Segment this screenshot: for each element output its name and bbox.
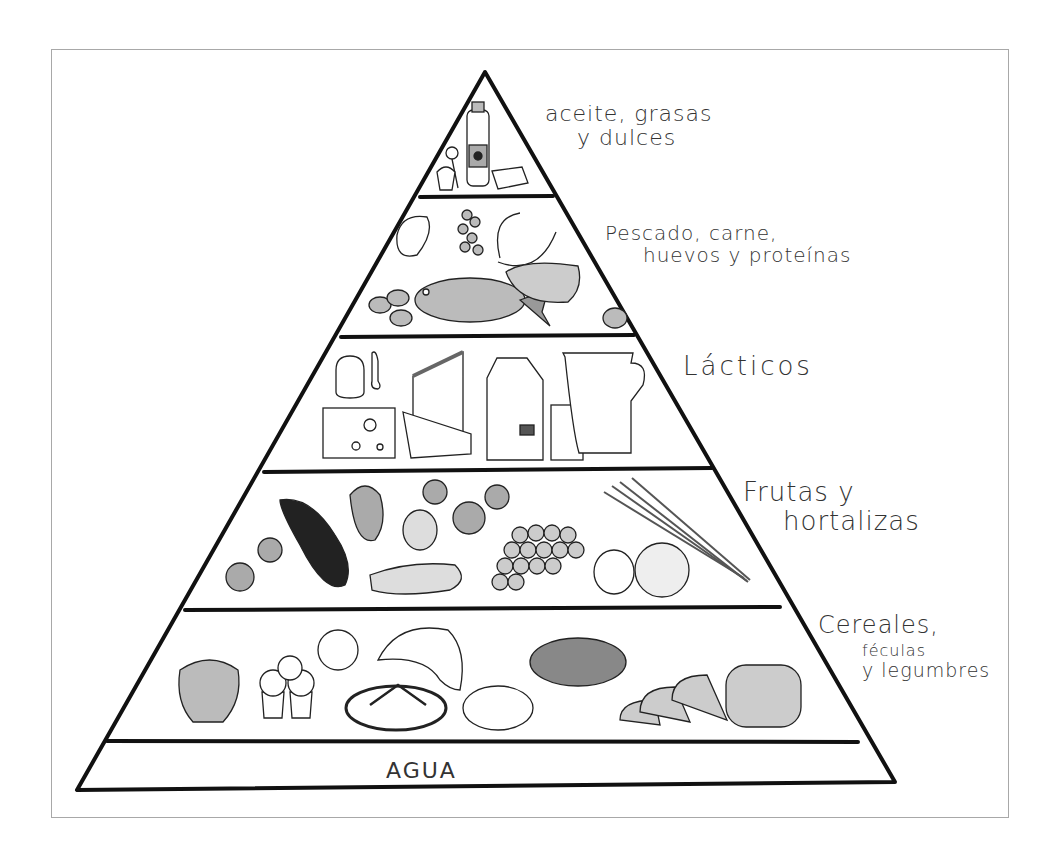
tier-1-label: aceite, grasas y dulces — [545, 102, 713, 150]
tier-6-label: AGUA — [386, 758, 457, 783]
food-pyramid — [0, 0, 1063, 864]
cucumber-icon — [370, 564, 461, 594]
divider-5 — [107, 741, 858, 742]
croissant-icon — [378, 628, 462, 690]
noodle-bowl-icon — [179, 660, 239, 722]
grapefruit-icon — [635, 543, 689, 597]
grapes-icon — [492, 525, 584, 590]
yogurt-icon — [336, 356, 364, 398]
cupcake-icon — [437, 167, 455, 190]
potato-icon — [463, 686, 533, 730]
butter-icon — [492, 167, 528, 189]
sausage-icon — [498, 213, 557, 266]
lollipop-icon — [446, 147, 458, 159]
swiss-cheese-icon — [323, 408, 395, 458]
tier-5-illustrations — [179, 628, 801, 730]
tier-5-label-line-1: Cereales, — [818, 612, 990, 638]
tier-3-label: Lácticos — [683, 352, 813, 381]
tier-2-illustrations — [369, 210, 627, 328]
peach-icon — [403, 510, 437, 550]
tier-4-illustrations — [226, 478, 750, 597]
tier-5-label: Cereales, féculas y legumbres — [818, 612, 990, 681]
tier-3-label-line-1: Lácticos — [683, 352, 813, 381]
muffins-icon — [260, 656, 314, 718]
lemon-icon — [594, 550, 634, 594]
fish-icon — [415, 278, 525, 322]
divider-4 — [185, 607, 780, 610]
tier-5-label-line-2: féculas — [818, 642, 990, 660]
divider-1 — [420, 196, 553, 197]
lentil-bowl-icon — [530, 638, 626, 686]
beans-icon — [458, 210, 483, 255]
tier-2-label: Pescado, carne, huevos y proteínas — [605, 222, 851, 266]
divider-2 — [341, 335, 634, 337]
tier-1-illustrations — [437, 102, 528, 190]
eggplant-icon — [280, 499, 348, 586]
tier-3-illustrations — [323, 352, 645, 460]
tier-2-label-line-2: huevos y proteínas — [605, 244, 851, 266]
cereal-icon — [318, 630, 358, 670]
divider-3 — [264, 468, 712, 472]
jug-icon — [563, 353, 645, 453]
orange-icon — [423, 480, 447, 504]
tier-1-label-line-2: y dulces — [545, 126, 713, 150]
tier-2-label-line-1: Pescado, carne, — [605, 222, 851, 244]
milk-carton-icon — [487, 358, 543, 460]
sliced-bread-icon — [620, 665, 801, 727]
tier-4-label-line-2: hortalizas — [743, 507, 920, 536]
spoon-icon — [372, 352, 380, 389]
tier-5-label-line-3: y legumbres — [818, 660, 990, 681]
pepper-icon — [350, 486, 383, 541]
tier-4-label-line-1: Frutas y — [743, 478, 920, 507]
tier-1-label-line-1: aceite, grasas — [545, 102, 713, 126]
tier-4-label: Frutas y hortalizas — [743, 478, 920, 535]
bread-loaf-icon — [346, 686, 446, 730]
